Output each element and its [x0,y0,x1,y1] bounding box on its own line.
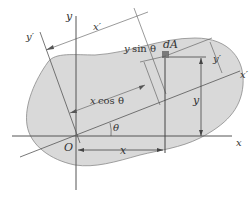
y-sin-theta-fn: sin θ [132,43,156,54]
x-cos-theta-var: x [90,95,96,106]
dA-label: dA [163,38,178,51]
x-axis-label: x [236,137,242,148]
x-dimension-label: x [120,144,127,157]
y-prime-dimension-label: y′ [212,53,222,64]
y-prime-axis-label: y′ [25,31,35,42]
x-cos-theta-fn: cos θ [98,95,124,106]
x-prime-axis-label: x′ [240,69,249,80]
x-prime-dimension-label: x′ [93,21,102,32]
y-dimension-label: y [192,94,200,107]
y-sin-theta-var: y [123,43,130,54]
y-axis-label: y [65,10,73,23]
rotated-axes-diagram: y x y′ x′ x′ y′ O θ dA y sin θ x cos θ x… [0,0,251,197]
origin-label: O [64,141,73,154]
theta-label: θ [113,122,119,133]
area-region [27,38,244,166]
